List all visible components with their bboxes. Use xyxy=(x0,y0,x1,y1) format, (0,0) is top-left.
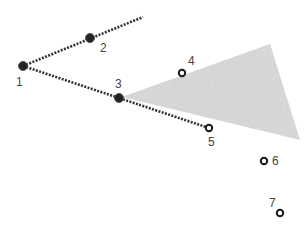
point-label-6: 6 xyxy=(272,154,279,168)
filled-point-2 xyxy=(86,34,95,43)
point-diagram: 1234567 xyxy=(0,0,307,233)
filled-point-3 xyxy=(115,94,124,103)
point-label-3: 3 xyxy=(115,77,122,91)
filled-point-1 xyxy=(19,62,28,71)
point-label-5: 5 xyxy=(208,135,215,149)
point-label-1: 1 xyxy=(16,75,23,89)
open-point-5 xyxy=(206,125,212,131)
open-point-7 xyxy=(277,210,283,216)
open-point-6 xyxy=(261,158,267,164)
point-label-2: 2 xyxy=(100,41,107,55)
dotted-segment-1 xyxy=(23,17,143,66)
open-point-4 xyxy=(179,70,185,76)
point-label-4: 4 xyxy=(188,54,195,68)
point-label-7: 7 xyxy=(269,196,276,210)
